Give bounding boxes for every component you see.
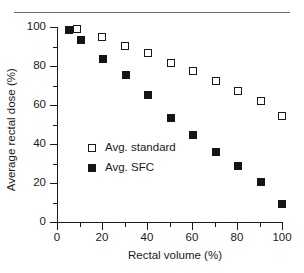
y-axis-tick-label: 60 — [33, 99, 46, 111]
x-axis-minor-tick — [215, 223, 216, 227]
x-axis-tick-label: 80 — [231, 232, 244, 244]
y-axis-tick-label: 20 — [33, 177, 46, 189]
y-axis-minor-tick — [53, 203, 57, 204]
data-point-marker — [167, 114, 175, 122]
data-point-marker — [278, 200, 286, 208]
filled-square-marker-icon — [88, 164, 96, 172]
y-axis-minor-tick — [53, 164, 57, 165]
data-point-marker — [144, 49, 152, 57]
y-axis-major-tick — [50, 222, 57, 223]
x-axis-tick-label: 0 — [54, 232, 60, 244]
x-axis-title: Rectal volume (%) — [0, 250, 304, 262]
x-axis-major-tick — [102, 223, 103, 230]
data-point-marker — [122, 71, 130, 79]
y-axis-tick-label: 40 — [33, 138, 46, 150]
data-point-marker — [99, 55, 107, 63]
open-square-marker-icon — [88, 144, 96, 152]
x-axis-tick-label: 40 — [141, 232, 154, 244]
data-point-marker — [257, 97, 265, 105]
y-axis-major-tick — [50, 66, 57, 67]
y-axis-major-tick — [50, 183, 57, 184]
y-axis-major-tick — [50, 27, 57, 28]
data-point-marker — [189, 67, 197, 75]
x-axis-major-tick — [192, 223, 193, 230]
x-axis-minor-tick — [170, 223, 171, 227]
x-axis-major-tick — [282, 223, 283, 230]
chart-legend: Avg. standard Avg. SFC — [88, 138, 176, 178]
y-axis-tick-label: 100 — [27, 21, 46, 33]
data-point-marker — [212, 148, 220, 156]
y-axis-minor-tick — [53, 125, 57, 126]
x-axis-minor-tick — [260, 223, 261, 227]
x-axis-major-tick — [147, 223, 148, 230]
x-axis-major-tick — [57, 223, 58, 230]
legend-label-avg-sfc: Avg. SFC — [105, 162, 154, 174]
y-axis-major-tick — [50, 105, 57, 106]
y-axis-minor-tick — [53, 47, 57, 48]
data-point-marker — [234, 87, 242, 95]
data-point-marker — [234, 162, 242, 170]
top-divider-rule — [14, 12, 290, 13]
y-axis-tick-label: 0 — [40, 216, 46, 228]
legend-item-avg-standard: Avg. standard — [88, 138, 176, 158]
data-point-marker — [65, 26, 73, 34]
data-point-marker — [121, 42, 129, 50]
y-axis-tick-label: 80 — [33, 60, 46, 72]
data-point-marker — [77, 36, 85, 44]
x-axis-tick-label: 20 — [96, 232, 109, 244]
y-axis-title: Average rectal dose (%) — [6, 50, 18, 210]
y-axis-major-tick — [50, 144, 57, 145]
data-point-marker — [73, 25, 81, 33]
legend-item-avg-sfc: Avg. SFC — [88, 158, 176, 178]
x-axis-major-tick — [237, 223, 238, 230]
data-point-marker — [144, 91, 152, 99]
data-point-marker — [98, 33, 106, 41]
x-axis-tick-label: 100 — [272, 232, 291, 244]
y-axis-line — [57, 27, 58, 223]
x-axis-minor-tick — [125, 223, 126, 227]
data-point-marker — [167, 59, 175, 67]
x-axis-minor-tick — [80, 223, 81, 227]
chart-figure: 020406080100020406080100 Rectal volume (… — [0, 0, 304, 273]
data-point-marker — [189, 131, 197, 139]
plot-area — [57, 27, 282, 222]
y-axis-minor-tick — [53, 86, 57, 87]
legend-label-avg-standard: Avg. standard — [105, 142, 176, 154]
data-point-marker — [278, 112, 286, 120]
data-point-marker — [212, 77, 220, 85]
x-axis-tick-label: 60 — [186, 232, 199, 244]
data-point-marker — [257, 178, 265, 186]
